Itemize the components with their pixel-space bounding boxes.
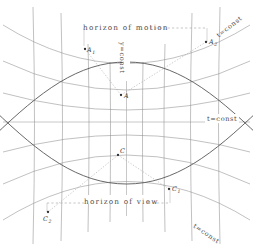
t-const-middle-label: t=const — [207, 115, 237, 123]
point-label-C1-sub: 1 — [177, 189, 180, 194]
horizon-of-view-label: horizon of view — [84, 197, 159, 206]
y-const-label: y=const — [118, 42, 126, 73]
point-C — [117, 154, 119, 156]
y-const-line — [219, 7, 221, 244]
point-label-A2: A2 — [209, 38, 218, 47]
point-A — [120, 94, 122, 96]
point-label-A-letter: A — [124, 92, 129, 100]
point-C1 — [168, 188, 170, 190]
point-label-C2: C2 — [43, 215, 52, 224]
ray-A-to-A1 — [85, 49, 121, 95]
y-const-line — [33, 7, 35, 244]
point-label-A1-sub: 1 — [92, 50, 95, 55]
diagram-root: horizon of motion horizon of view t=cons… — [0, 0, 253, 250]
point-label-A2-sub: 2 — [214, 42, 217, 47]
point-label-A1: A1 — [87, 46, 96, 55]
point-label-C2-sub: 2 — [48, 219, 51, 224]
point-label-A: A — [124, 92, 129, 100]
point-A2 — [205, 41, 207, 43]
point-label-C-letter: C — [120, 147, 125, 155]
y-const-line — [61, 13, 63, 241]
point-C2 — [47, 211, 49, 213]
point-A1 — [84, 48, 86, 50]
point-label-C: C — [120, 147, 125, 155]
point-label-C1: C1 — [172, 185, 181, 194]
label-backdrops — [84, 21, 239, 204]
y-const-line — [164, 44, 165, 232]
y-const-line — [191, 13, 193, 241]
horizon-of-motion-label: horizon of motion — [83, 23, 169, 32]
